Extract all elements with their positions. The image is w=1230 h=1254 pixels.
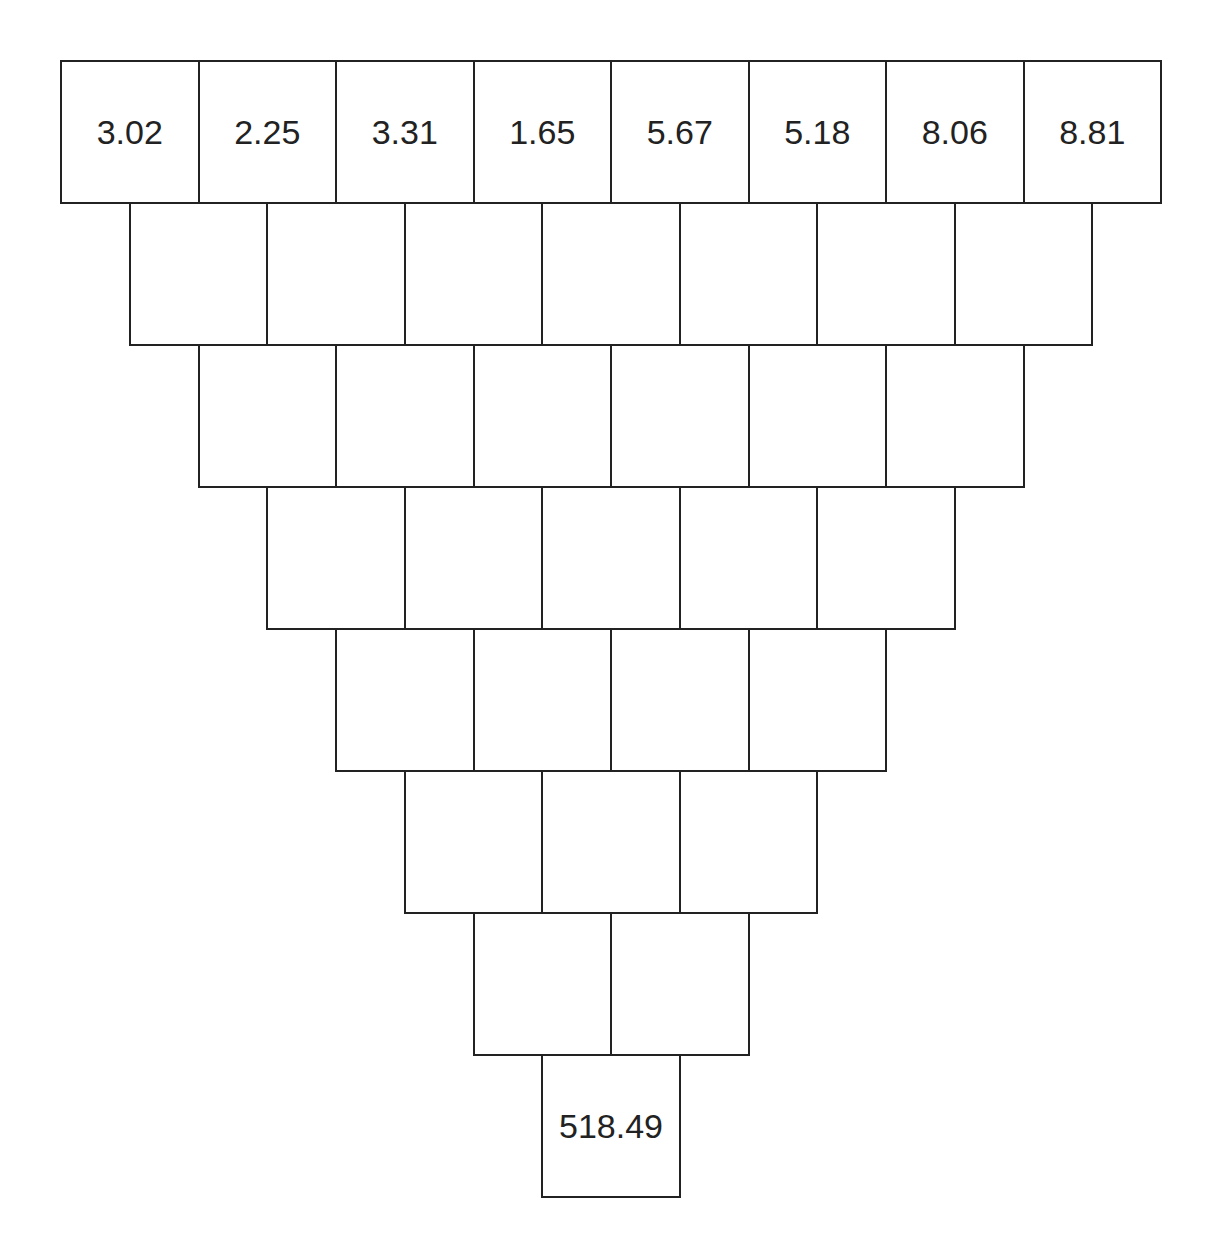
pyramid-cell-r4-c4 (679, 486, 819, 630)
pyramid-cell-r2-c1 (129, 202, 269, 346)
pyramid-cell-r3-c6 (885, 344, 1025, 488)
pyramid-cell-r4-c2 (404, 486, 544, 630)
pyramid-cell-r2-c2 (266, 202, 406, 346)
pyramid-cell-r1-c7: 8.06 (885, 60, 1025, 204)
pyramid-cell-r1-c2: 2.25 (198, 60, 338, 204)
pyramid-cell-r4-c1 (266, 486, 406, 630)
pyramid-cell-r4-c5 (816, 486, 956, 630)
pyramid-cell-r2-c3 (404, 202, 544, 346)
number-pyramid: 3.022.253.311.655.675.188.068.81518.49 (0, 0, 1230, 1254)
pyramid-cell-r1-c8: 8.81 (1023, 60, 1163, 204)
pyramid-cell-r1-c6: 5.18 (748, 60, 888, 204)
pyramid-cell-r2-c6 (816, 202, 956, 346)
pyramid-cell-r6-c1 (404, 770, 544, 914)
pyramid-cell-r5-c4 (748, 628, 888, 772)
pyramid-cell-r6-c2 (541, 770, 681, 914)
pyramid-cell-r4-c3 (541, 486, 681, 630)
pyramid-cell-r3-c4 (610, 344, 750, 488)
pyramid-cell-r7-c1 (473, 912, 613, 1056)
pyramid-cell-r3-c1 (198, 344, 338, 488)
pyramid-cell-r5-c3 (610, 628, 750, 772)
pyramid-cell-r6-c3 (679, 770, 819, 914)
pyramid-cell-r5-c1 (335, 628, 475, 772)
pyramid-cell-r5-c2 (473, 628, 613, 772)
pyramid-cell-r7-c2 (610, 912, 750, 1056)
pyramid-cell-r3-c2 (335, 344, 475, 488)
pyramid-cell-r1-c3: 3.31 (335, 60, 475, 204)
pyramid-cell-r2-c5 (679, 202, 819, 346)
pyramid-cell-r1-c4: 1.65 (473, 60, 613, 204)
pyramid-cell-r3-c5 (748, 344, 888, 488)
pyramid-cell-r1-c1: 3.02 (60, 60, 200, 204)
pyramid-cell-r2-c4 (541, 202, 681, 346)
pyramid-cell-r1-c5: 5.67 (610, 60, 750, 204)
pyramid-cell-r8-c1: 518.49 (541, 1054, 681, 1198)
pyramid-cell-r3-c3 (473, 344, 613, 488)
pyramid-cell-r2-c7 (954, 202, 1094, 346)
